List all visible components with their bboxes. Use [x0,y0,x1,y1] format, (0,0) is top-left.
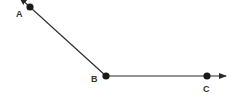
point-c [203,72,210,79]
label-a: A [16,9,23,19]
label-b: B [91,74,98,84]
angle-diagram: A B C [0,0,235,104]
point-a [26,3,33,10]
label-c: C [203,84,210,94]
ray-ba [20,0,106,76]
point-b [102,72,109,79]
